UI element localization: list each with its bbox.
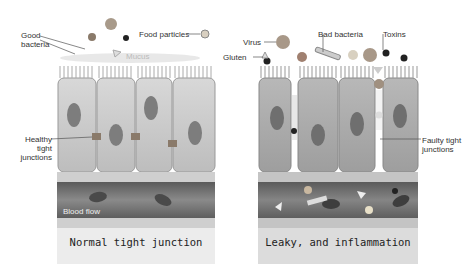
mucus-label: Mucus [126,52,150,61]
toxins-label: Toxins [383,30,406,39]
virus-label: Virus [243,38,261,47]
left-caption: Normal tight junction [57,236,215,248]
good-bacteria-label: Good bacteria [21,31,61,49]
right-caption: Leaky, and inflammation [258,236,418,248]
healthy-junctions-label: Healthy tight junctions [12,135,52,162]
bad-bacteria-label: Bad bacteria [318,30,363,39]
blood-flow-label: Blood flow [63,207,100,216]
gluten-label: Gluten [223,53,247,62]
food-particles-label: Food particles [139,30,189,39]
faulty-junctions-label: Faulty tight junctions [422,136,462,154]
